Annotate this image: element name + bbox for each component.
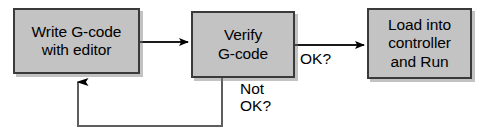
node-verify-gcode[interactable]: Verify G-code (191, 11, 295, 78)
node-load-into-controller-label: Load into controller and Run (369, 16, 470, 71)
node-load-into-controller-line-2: controller (372, 34, 467, 52)
edge-label-not-ok-line-1: Not (240, 80, 271, 97)
node-load-into-controller[interactable]: Load into controller and Run (367, 8, 472, 79)
node-verify-gcode-label: Verify G-code (193, 26, 293, 63)
node-write-gcode[interactable]: Write G-code with editor (13, 8, 140, 74)
node-write-gcode-line-1: Write G-code (18, 23, 135, 41)
flowchart-canvas: Write G-code with editor Verify G-code L… (0, 0, 482, 134)
edge-label-ok-line-1: OK? (300, 50, 331, 67)
node-verify-gcode-line-1: Verify (196, 26, 290, 44)
node-load-into-controller-line-1: Load into (372, 16, 467, 34)
node-verify-gcode-line-2: G-code (196, 45, 290, 63)
node-write-gcode-line-2: with editor (18, 41, 135, 59)
node-write-gcode-label: Write G-code with editor (15, 23, 138, 60)
edge-label-ok: OK? (300, 50, 331, 67)
edge-label-not-ok-line-2: OK? (240, 97, 271, 114)
edge-label-not-ok: Not OK? (240, 80, 271, 115)
connector-verify-back-to-write (78, 78, 222, 126)
node-load-into-controller-line-3: and Run (372, 53, 467, 71)
